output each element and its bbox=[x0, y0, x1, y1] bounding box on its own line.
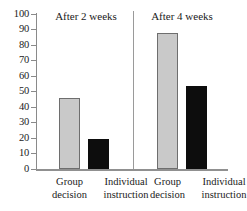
panel-title-after-2-weeks: After 2 weeks bbox=[40, 10, 132, 23]
y-tick-label-60: 60 bbox=[0, 71, 29, 81]
y-tick-50 bbox=[31, 91, 36, 92]
y-tick-label-40: 40 bbox=[0, 102, 29, 112]
panel-title-after-4-weeks: After 4 weeks bbox=[136, 10, 228, 23]
y-tick-label-0: 0 bbox=[0, 164, 29, 174]
y-tick-label-30: 30 bbox=[0, 117, 29, 127]
y-tick-60 bbox=[31, 76, 36, 77]
x-axis-line bbox=[36, 169, 228, 171]
x-label-line2: decision bbox=[139, 188, 196, 201]
y-tick-label-80: 80 bbox=[0, 40, 29, 50]
bar-after-4-weeks-group-decision bbox=[157, 33, 178, 169]
x-label-line2: instruction bbox=[194, 188, 247, 201]
y-tick-label-10: 10 bbox=[0, 148, 29, 158]
y-tick-label-70: 70 bbox=[0, 55, 29, 65]
y-tick-label-100: 100 bbox=[0, 9, 29, 19]
bar-after-4-weeks-individual-instruction bbox=[186, 86, 207, 169]
y-tick-30 bbox=[31, 122, 36, 123]
y-tick-40 bbox=[31, 107, 36, 108]
bar-after-2-weeks-individual-instruction bbox=[88, 139, 109, 169]
y-tick-20 bbox=[31, 138, 36, 139]
bar-after-2-weeks-group-decision bbox=[59, 98, 80, 169]
y-tick-10 bbox=[31, 153, 36, 154]
x-label-after-4-weeks-individual-instruction: Individual instruction bbox=[194, 175, 247, 201]
x-label-line1: Individual bbox=[194, 175, 247, 188]
x-label-after-4-weeks-group-decision: Group decision bbox=[139, 175, 196, 201]
y-tick-70 bbox=[31, 60, 36, 61]
x-label-line2: decision bbox=[41, 188, 98, 201]
x-label-after-2-weeks-group-decision: Group decision bbox=[41, 175, 98, 201]
x-label-line1: Group bbox=[41, 175, 98, 188]
y-tick-100 bbox=[31, 14, 36, 15]
y-axis-line bbox=[36, 13, 37, 170]
x-label-line1: Group bbox=[139, 175, 196, 188]
y-tick-label-90: 90 bbox=[0, 24, 29, 34]
y-tick-80 bbox=[31, 45, 36, 46]
y-tick-label-20: 20 bbox=[0, 133, 29, 143]
y-tick-label-50: 50 bbox=[0, 86, 29, 96]
y-tick-90 bbox=[31, 29, 36, 30]
panel-divider bbox=[133, 11, 134, 169]
bar-chart: 100 90 80 70 60 50 40 30 20 10 0 After 2… bbox=[0, 0, 247, 211]
